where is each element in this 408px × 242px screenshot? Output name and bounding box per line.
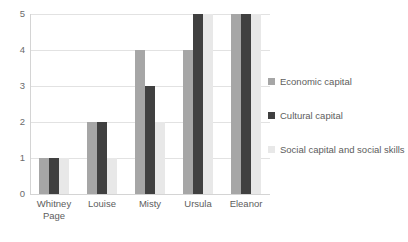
legend-label: Cultural capital — [280, 110, 343, 121]
x-axis-label-line: Eleanor — [222, 198, 270, 210]
bar-group — [174, 14, 222, 194]
bar-group — [126, 14, 174, 194]
x-axis-category-label: Eleanor — [222, 198, 270, 210]
bar — [87, 122, 97, 194]
y-axis-tick-label: 1 — [3, 153, 25, 163]
bar — [183, 50, 193, 194]
bar-group — [222, 14, 270, 194]
bar — [145, 86, 155, 194]
x-axis-category-label: Ursula — [174, 198, 222, 210]
y-axis-tick-label: 0 — [3, 189, 25, 199]
bar-group — [30, 14, 78, 194]
bar — [231, 14, 241, 194]
x-axis-category-label: Misty — [126, 198, 174, 210]
legend-swatch-icon — [268, 112, 275, 119]
y-axis-tick-label: 4 — [3, 45, 25, 55]
bar — [49, 158, 59, 194]
y-axis-tick-labels: 543210 — [0, 14, 25, 194]
x-axis-category-label: Louise — [78, 198, 126, 210]
bars-layer — [30, 14, 270, 194]
axis-baseline — [30, 194, 270, 195]
x-axis-label-line: Whitney — [30, 198, 78, 210]
legend-item[interactable]: Cultural capital — [268, 110, 343, 121]
legend-swatch-icon — [268, 78, 275, 85]
bar-chart: 543210 WhitneyPageLouiseMistyUrsulaElean… — [0, 0, 408, 242]
x-axis-label-line: Louise — [78, 198, 126, 210]
bar — [193, 14, 203, 194]
bar — [251, 14, 261, 194]
legend-label: Social capital and social skills — [280, 144, 405, 155]
bar — [203, 14, 213, 194]
x-axis-category-label: WhitneyPage — [30, 198, 78, 222]
bar — [97, 122, 107, 194]
y-axis-tick-label: 3 — [3, 81, 25, 91]
legend-swatch-icon — [268, 146, 275, 153]
legend-label: Economic capital — [280, 76, 352, 87]
y-axis-tick-label: 5 — [3, 9, 25, 19]
x-axis-category-labels: WhitneyPageLouiseMistyUrsulaEleanor — [30, 198, 270, 238]
bar — [107, 158, 117, 194]
bar — [39, 158, 49, 194]
x-axis-label-line: Page — [30, 210, 78, 222]
legend-item[interactable]: Economic capital — [268, 76, 352, 87]
x-axis-label-line: Misty — [126, 198, 174, 210]
bar — [241, 14, 251, 194]
bar — [155, 122, 165, 194]
legend-item[interactable]: Social capital and social skills — [268, 144, 405, 155]
bar — [59, 158, 69, 194]
bar — [135, 50, 145, 194]
bar-group — [78, 14, 126, 194]
y-axis-tick-label: 2 — [3, 117, 25, 127]
x-axis-label-line: Ursula — [174, 198, 222, 210]
